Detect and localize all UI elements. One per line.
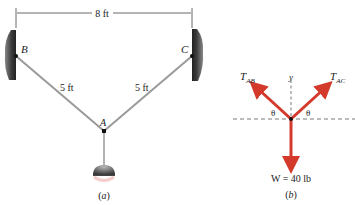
point-C	[190, 54, 194, 58]
label-weight: W = 40 lb	[271, 173, 311, 184]
label-T-AC: TAC	[330, 70, 345, 85]
label-B: B	[21, 43, 28, 55]
label-A: A	[99, 117, 107, 128]
figure-a: 8 ft B C A 5 ft 5 ft (a)	[5, 8, 203, 202]
caption-a: (a)	[98, 190, 110, 202]
statics-diagram: 8 ft B C A 5 ft 5 ft (a)	[0, 0, 355, 205]
angle-theta-right: θ	[306, 108, 310, 118]
label-T-AB: TAB	[240, 70, 255, 85]
cable-AB	[16, 56, 104, 131]
dimension-label: 8 ft	[95, 8, 109, 19]
point-B	[14, 54, 18, 58]
cable-AC	[104, 56, 192, 131]
cable-AC-length: 5 ft	[135, 82, 149, 93]
label-C: C	[181, 43, 189, 55]
cable-AB-length: 5 ft	[60, 82, 74, 93]
lamp	[93, 165, 115, 181]
dimension-8ft: 8 ft	[16, 8, 192, 28]
origin-point	[289, 117, 293, 121]
figure-b: TAB TAC y θ θ W = 40 lb (b)	[233, 70, 355, 201]
caption-b: (b)	[285, 189, 297, 201]
point-A	[102, 129, 106, 133]
angle-theta-left: θ	[271, 108, 275, 118]
label-y-axis: y	[288, 72, 293, 82]
